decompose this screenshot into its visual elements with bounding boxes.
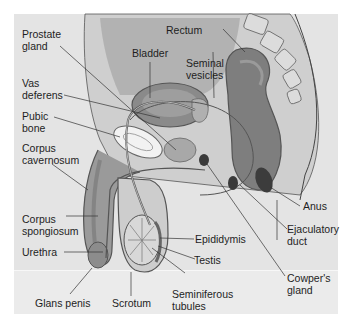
label-seminiferous-tubules: Seminiferous tubules xyxy=(172,288,233,312)
label-cowpers-gland: Cowper's gland xyxy=(287,272,330,296)
label-epididymis: Epididymis xyxy=(195,233,246,245)
label-anus: Anus xyxy=(303,200,327,212)
label-glans-penis: Glans penis xyxy=(35,297,90,309)
label-corpus-cavernosum: Corpus cavernosum xyxy=(22,142,79,166)
label-rectum: Rectum xyxy=(166,24,202,36)
label-seminal-vesicles: Seminal vesicles xyxy=(186,57,224,81)
label-vas-deferens: Vas deferens xyxy=(22,77,63,101)
label-bladder: Bladder xyxy=(132,47,168,59)
label-corpus-spongiosum: Corpus spongiosum xyxy=(22,213,79,237)
label-ejaculatory-duct: Ejaculatory duct xyxy=(287,223,339,247)
label-testis: Testis xyxy=(194,254,221,266)
label-prostate-gland: Prostate gland xyxy=(22,28,61,52)
label-urethra: Urethra xyxy=(22,246,57,258)
label-scrotum: Scrotum xyxy=(112,297,151,309)
label-pubic-bone: Pubic bone xyxy=(22,110,48,134)
